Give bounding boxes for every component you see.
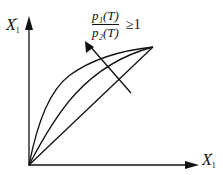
ratio-annotation: p₁(T) p₂(T) ≥1 xyxy=(92,9,119,40)
x-axis-label: X1′ xyxy=(202,152,213,170)
y-axis-label: X1″ xyxy=(6,17,18,35)
ratio-relation: ≥1 xyxy=(126,17,141,33)
ratio-numerator: p₁(T) xyxy=(92,9,119,23)
direction-arrowhead-icon xyxy=(85,41,94,53)
diagonal-line xyxy=(29,47,153,165)
y-axis-arrowhead-icon xyxy=(25,16,33,30)
x-axis-arrowhead-icon xyxy=(185,161,199,169)
ratio-denominator: p₂(T) xyxy=(92,26,119,40)
